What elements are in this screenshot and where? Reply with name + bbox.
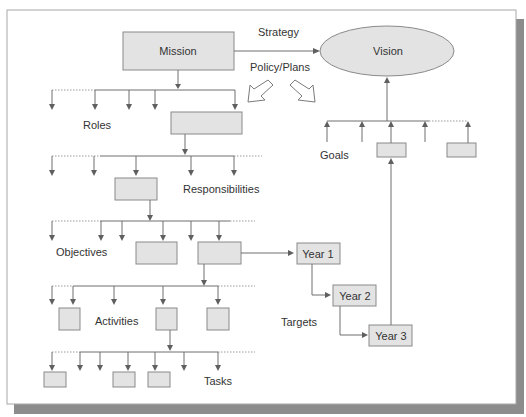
mission-label: Mission [159,45,196,57]
year2-label: Year 2 [339,290,370,302]
strategy-hierarchy-diagram: Mission Strategy Vision Policy/Plans Rol… [0,0,526,417]
task-box-2 [113,372,135,387]
goal-box-2 [447,143,476,157]
goal-box-1 [377,143,406,157]
activity-box-3 [207,308,229,330]
vision-node: Vision [320,26,454,76]
year3-node: Year 3 [369,325,412,346]
goals-label: Goals [320,149,349,161]
mission-node: Mission [123,32,234,70]
year1-label: Year 1 [302,248,333,260]
responsibility-box [115,178,157,200]
activities-label: Activities [95,315,139,327]
objective-box-1 [136,242,177,264]
objective-box-2 [198,242,241,264]
year1-node: Year 1 [297,243,340,264]
strategy-label: Strategy [258,26,299,38]
vision-label: Vision [373,45,403,57]
roles-label: Roles [83,119,112,131]
responsibilities-label: Responsibilities [183,183,260,195]
year2-node: Year 2 [333,285,376,306]
targets-label: Targets [281,316,318,328]
year3-label: Year 3 [375,330,406,342]
task-box-3 [148,372,170,387]
policy-plans-label: Policy/Plans [250,61,310,73]
activity-box-2 [156,308,177,330]
activity-box-1 [59,308,80,330]
task-box-1 [44,372,66,387]
tasks-label: Tasks [204,375,233,387]
objectives-label: Objectives [56,246,108,258]
role-box [171,112,242,134]
